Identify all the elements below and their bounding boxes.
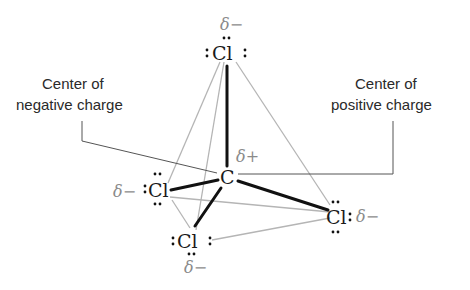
ccl4-dipole-diagram: C δ+ δ− Cl δ− Cl Cl δ− Cl δ− Center of n… (0, 0, 470, 290)
right-cl-partial-charge: δ− (356, 207, 379, 226)
left-chlorine-atom: Cl (148, 179, 169, 201)
bonds (171, 66, 328, 226)
bottom-chlorine-atom: Cl (177, 230, 198, 252)
top-cl-partial-charge: δ− (220, 15, 243, 34)
positive-center-label-line2: positive charge (331, 96, 432, 113)
negative-center-label-line1: Center of (42, 75, 105, 92)
negative-center-leader (82, 121, 217, 173)
bottom-cl-partial-charge: δ− (184, 258, 207, 277)
right-chlorine-atom: Cl (326, 206, 347, 228)
positive-center-leader (238, 121, 393, 174)
negative-center-label-line2: negative charge (16, 96, 123, 113)
carbon-partial-charge: δ+ (236, 147, 259, 166)
carbon-atom: C (220, 166, 235, 188)
top-chlorine-atom: Cl (212, 42, 233, 64)
positive-center-label-line1: Center of (355, 75, 418, 92)
left-cl-partial-charge: δ− (113, 182, 136, 201)
